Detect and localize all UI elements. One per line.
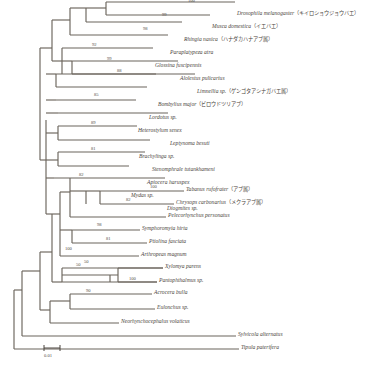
taxon-scientific-name: Limnellia sp. [197,88,226,94]
taxon-scientific-name: Sylvicola alternatus [238,331,283,337]
taxon-label: Tipula paterifera [241,344,279,350]
taxon-scientific-name: Mydas sp. [131,192,154,198]
taxon-label: Heterostylum senex [138,127,182,133]
taxon-scientific-name: Stenomphrale tutankhameni [152,166,215,172]
taxon-scientific-name: Leptynoma besuti [170,140,210,146]
taxon-label: Alolestus pulicarius [180,75,225,81]
taxon-label: Diogmites sp. [167,205,198,211]
taxon-scientific-name: Lordotus sp. [149,114,177,120]
taxon-label: Glossina fuscipennis [155,62,201,68]
taxon-scientific-name: Paraplatypeza atra [170,49,213,55]
support-value: 81 [91,146,96,151]
taxon-scientific-name: Alolestus pulicarius [180,75,225,81]
taxon-scientific-name: Drosophila melanogaster [237,10,294,16]
taxon-scientific-name: Pelecorhynchus personatus [168,212,230,218]
support-value: 92 [92,42,97,47]
phylogenetic-tree-figure: Drosophila melanogaster（キイロショウジョウバエ） Mus… [0,0,377,367]
support-value: 99 [162,12,167,17]
taxon-label: Chrysops carbonarius（メクラアブ属） [176,199,266,205]
taxon-label: Ptiolina fasciata [149,238,186,244]
taxon-scientific-name: Musca domestica [212,23,251,29]
taxon-japanese-name: （メクラアブ属） [226,199,266,205]
taxon-scientific-name: Xylomya parens [165,263,201,269]
taxon-label: Lordotus sp. [149,114,177,120]
taxon-scientific-name: Chrysops carbonarius [176,199,226,205]
support-value: 98 [143,26,148,31]
support-value: 81 [106,236,111,241]
support-value: 100 [150,184,157,189]
taxon-japanese-name: （イエバエ） [251,23,281,29]
support-value: 100 [129,276,136,281]
support-value: 50 [84,259,89,264]
support-value: 99 [107,56,112,61]
taxon-label: Eulonchus sp. [157,304,188,310]
taxon-label: Rhingia nasica（ハナダカハナアブ属） [184,36,273,42]
taxon-label: Pelecorhynchus personatus [168,212,230,218]
support-value: 82 [126,197,131,202]
taxon-scientific-name: Ptiolina fasciata [149,238,186,244]
taxon-label: Brachylinga sp. [139,153,174,159]
support-value: 50 [76,262,81,267]
taxon-label: Stenomphrale tutankhameni [152,166,215,172]
taxon-label: Leptynoma besuti [170,140,210,146]
taxon-label: Arthropeas magnum [141,251,187,257]
taxon-scientific-name: Tipula paterifera [241,344,279,350]
taxon-scientific-name: Pantophthalmus sp. [159,277,203,283]
support-value: 85 [94,92,99,97]
support-value: 88 [117,68,122,73]
taxon-scientific-name: Neorhynchocephalus volaticus [121,318,190,324]
taxon-scientific-name: Heterostylum senex [138,127,182,133]
taxon-label: Bombylius major（ビロウドツリアブ） [158,101,246,107]
taxon-label: Paraplatypeza atra [170,49,213,55]
taxon-label: Mydas sp. [131,192,154,198]
taxon-label: Musca domestica（イエバエ） [212,23,281,29]
taxon-label: Limnellia sp.（ゲンゴタアシナガバエ属） [197,88,291,94]
support-value: 98 [97,222,102,227]
taxon-scientific-name: Arthropeas magnum [141,251,187,257]
taxon-japanese-name: （アブ属） [228,186,253,192]
taxon-scientific-name: Acrocera bulla [154,289,188,295]
taxon-japanese-name: （ビロウドツリアブ） [196,101,246,107]
taxon-label: Symphoromyia hirta [142,225,188,231]
taxon-label: Pantophthalmus sp. [159,277,203,283]
support-value: 90 [86,288,91,293]
taxon-label: Acrocera bulla [154,289,188,295]
taxon-label: Tabanus rufofrater（アブ属） [186,186,253,192]
taxon-label: Drosophila melanogaster（キイロショウジョウバエ） [237,10,359,16]
taxon-scientific-name: Tabanus rufofrater [186,186,228,192]
support-value: 100 [188,0,195,3]
taxon-japanese-name: （ハナダカハナアブ属） [218,36,273,42]
support-value: 100 [65,246,72,251]
support-value: 82 [79,172,84,177]
taxon-scientific-name: Bombylius major [158,101,196,107]
taxon-japanese-name: （ゲンゴタアシナガバエ属） [226,88,291,94]
taxon-scientific-name: Glossina fuscipennis [155,62,201,68]
taxon-scientific-name: Rhingia nasica [184,36,218,42]
scale-bar [44,345,60,351]
support-value: 89 [91,120,96,125]
taxon-scientific-name: Brachylinga sp. [139,153,174,159]
taxon-scientific-name: Eulonchus sp. [157,304,188,310]
scale-bar-label: 0.01 [44,353,52,358]
taxon-japanese-name: （キイロショウジョウバエ） [294,10,359,16]
taxon-label: Xylomya parens [165,263,201,269]
taxon-scientific-name: Diogmites sp. [167,205,198,211]
taxon-label: Sylvicola alternatus [238,331,283,337]
taxon-scientific-name: Symphoromyia hirta [142,225,188,231]
taxon-label: Neorhynchocephalus volaticus [121,318,190,324]
